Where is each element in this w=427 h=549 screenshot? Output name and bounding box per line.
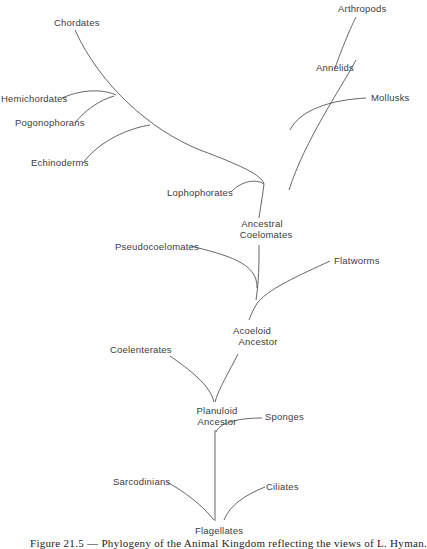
edge-hemichordates [62,91,116,98]
edge-arthropods [289,60,356,190]
node-annelids: Annelids [316,62,354,73]
node-acoeloid-ancestor: Acoeloid Ancestor [225,325,285,347]
node-flagellates: Flagellates [195,525,243,536]
edge-acoeloid-planuloid [215,354,238,402]
edge-mollusks [290,98,366,130]
edge-flatworms [256,261,330,305]
edge-lophophorates [231,181,264,192]
node-chordates: Chordates [54,17,100,28]
node-sarcodinians: Sarcodinians [113,476,170,487]
node-acoeloid-ancestor-line1: Acoeloid [219,325,285,336]
figure-caption: Figure 21.5 — Phylogeny of the Animal Ki… [30,537,427,549]
node-ciliates: Ciliates [266,481,299,492]
node-planuloid-ancestor-line1: Planuloid [187,405,247,416]
node-sponges: Sponges [265,411,304,422]
node-planuloid-ancestor: Planuloid Ancestor [187,405,247,427]
node-coelenterates: Coelenterates [110,344,172,355]
node-ancestral-coelomates-line1: Ancestral [228,218,296,229]
node-lophophorates: Lophophorates [167,187,233,198]
edge-chordates [75,30,264,184]
node-pogonophorans: Pogonophorans [15,117,85,128]
edge-annelids-arthropods [335,17,356,68]
edge-echinoderms [83,125,150,163]
edge-coelenterates [170,356,214,402]
edge-acoeloid-down [249,305,256,320]
edge-ciliates [224,487,265,520]
node-planuloid-ancestor-line2: Ancestor [187,416,247,427]
edge-pseudocoelomates [191,246,257,288]
node-arthropods: Arthropods [338,3,386,14]
edge-coelomates-trunk [259,184,264,218]
node-hemichordates: Hemichordates [1,93,68,104]
node-echinoderms: Echinoderms [31,157,89,168]
edge-coelomates-down [256,245,259,300]
node-mollusks: Mollusks [371,92,410,103]
node-ancestral-coelomates-line2: Coelomates [236,229,296,240]
node-flatworms: Flatworms [334,255,380,266]
node-pseudocoelomates: Pseudocoelomates [115,241,199,252]
edge-sarcodinians [167,482,214,520]
node-ancestral-coelomates: Ancestral Coelomates [236,218,296,240]
node-acoeloid-ancestor-line2: Ancestor [231,336,285,347]
